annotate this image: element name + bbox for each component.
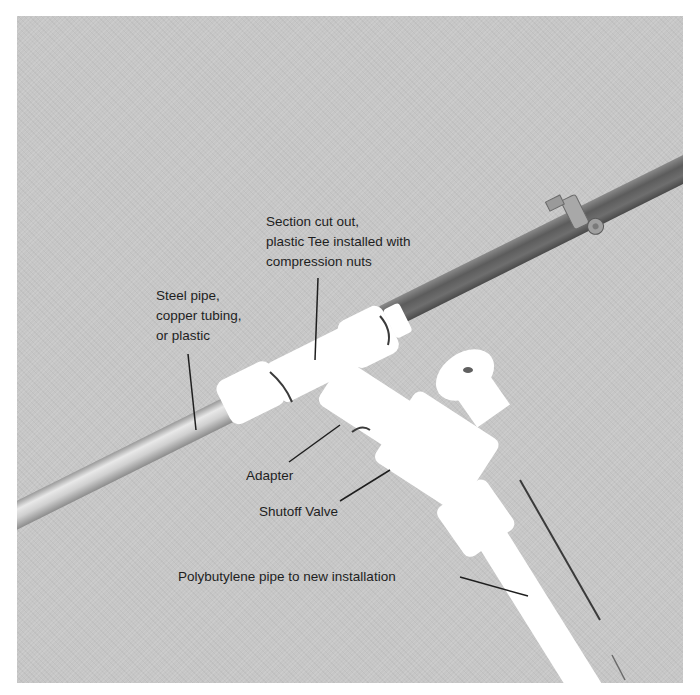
callout-steel-pipe-line-3: or plastic — [156, 326, 242, 346]
plastic-fittings — [213, 302, 609, 683]
callout-section-cut-line-1: Section cut out, — [266, 212, 411, 232]
callout-steel-pipe-line-1: Steel pipe, — [156, 286, 242, 306]
steel-pipe-upper — [379, 146, 683, 330]
callout-adapter: Adapter — [246, 466, 293, 486]
callout-section-cut-line-2: plastic Tee installed with — [266, 232, 411, 252]
callout-shutoff-valve-text: Shutoff Valve — [259, 502, 338, 522]
callout-polybutylene-pipe: Polybutylene pipe to new installation — [178, 567, 396, 587]
callout-section-cut-line-3: compression nuts — [266, 252, 411, 272]
callout-polybutylene-pipe-text: Polybutylene pipe to new installation — [178, 567, 396, 587]
callout-steel-pipe-line-2: copper tubing, — [156, 306, 242, 326]
callout-section-cut: Section cut out, plastic Tee installed w… — [266, 212, 411, 272]
callout-steel-pipe: Steel pipe, copper tubing, or plastic — [156, 286, 242, 346]
callout-adapter-text: Adapter — [246, 466, 293, 486]
callout-shutoff-valve: Shutoff Valve — [259, 502, 338, 522]
light-pipe-lower — [17, 398, 234, 537]
